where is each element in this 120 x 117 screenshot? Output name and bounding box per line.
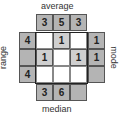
right-cell-2: 1	[88, 49, 105, 66]
left-cell-2	[19, 49, 36, 66]
inner-cell-1-3[interactable]	[70, 32, 87, 49]
right-cell-3	[88, 66, 105, 83]
inner-cell-3-1[interactable]	[36, 66, 53, 83]
right-cell-1: 1	[88, 32, 105, 49]
inner-cell-3-3[interactable]	[70, 66, 87, 83]
inner-cell-3-2[interactable]	[53, 66, 70, 83]
top-cell-2: 5	[53, 14, 70, 31]
inner-cell-2-3[interactable]: 1	[70, 49, 87, 66]
left-cell-3: 4	[19, 66, 36, 83]
inner-cell-2-2[interactable]	[53, 49, 70, 66]
label-average: average	[41, 2, 74, 11]
label-range: range	[0, 46, 8, 69]
bottom-cell-1: 3	[36, 84, 53, 101]
left-cell-1: 4	[19, 32, 36, 49]
inner-cell-1-2[interactable]: 1	[53, 32, 70, 49]
inner-cell-2-1[interactable]: 1	[36, 49, 53, 66]
inner-cell-1-1[interactable]	[36, 32, 53, 49]
bottom-cell-3	[70, 84, 87, 101]
top-cell-1: 3	[36, 14, 53, 31]
label-mode: mode	[109, 46, 118, 69]
label-median: median	[42, 105, 72, 114]
top-cell-3: 3	[70, 14, 87, 31]
bottom-cell-2: 6	[53, 84, 70, 101]
